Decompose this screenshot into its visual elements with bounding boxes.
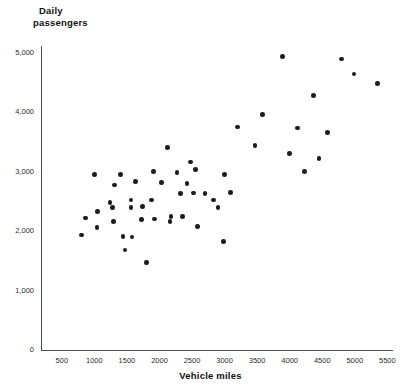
- data-point: [203, 191, 208, 196]
- y-tick-4000: 4,000: [0, 107, 34, 116]
- data-point: [188, 160, 193, 165]
- data-point: [151, 169, 156, 174]
- data-point: [222, 172, 227, 177]
- y-axis-title-line2: passengers: [33, 17, 88, 29]
- data-point: [317, 156, 322, 161]
- y-axis-title-line1: Daily: [33, 5, 88, 17]
- data-point: [95, 225, 100, 230]
- data-point: [123, 248, 128, 253]
- x-tick-4000: 4000: [273, 356, 307, 365]
- data-point: [83, 216, 88, 221]
- data-point: [325, 130, 330, 135]
- data-point: [129, 205, 134, 210]
- data-point: [95, 209, 100, 214]
- data-point: [129, 198, 134, 203]
- data-point: [92, 172, 97, 177]
- data-point: [339, 57, 344, 62]
- data-point: [112, 183, 117, 188]
- x-tick-5500: 5500: [370, 356, 403, 365]
- x-tick-4500: 4500: [305, 356, 339, 365]
- data-point: [111, 219, 116, 224]
- data-point: [302, 169, 307, 174]
- data-point: [159, 180, 164, 185]
- data-point: [140, 204, 145, 209]
- data-point: [139, 217, 144, 222]
- x-tick-1000: 1000: [77, 356, 111, 365]
- data-point: [118, 172, 123, 177]
- y-tick-1000: 1,000: [0, 286, 34, 295]
- data-point: [169, 214, 174, 219]
- data-point: [211, 198, 216, 203]
- data-point: [375, 81, 380, 86]
- data-point: [149, 198, 154, 203]
- data-point: [175, 170, 180, 175]
- data-point: [133, 179, 138, 184]
- data-point: [108, 200, 113, 205]
- y-axis-line: [41, 46, 42, 351]
- data-point: [178, 191, 183, 196]
- data-point: [130, 235, 135, 240]
- data-point: [311, 93, 316, 98]
- y-tick-0: 0: [0, 345, 34, 354]
- data-point: [221, 239, 226, 244]
- x-tick-1500: 1500: [110, 356, 144, 365]
- data-point: [352, 72, 357, 77]
- data-point: [144, 260, 149, 265]
- x-tick-3500: 3500: [240, 356, 274, 365]
- y-tick-2000: 2,000: [0, 226, 34, 235]
- y-tick-5000: 5,000: [0, 48, 34, 57]
- x-tick-2500: 2500: [175, 356, 209, 365]
- x-tick-3000: 3000: [208, 356, 242, 365]
- data-point: [260, 112, 265, 117]
- scatter-plot: Daily passengers 01,0002,0003,0004,0005,…: [0, 0, 403, 386]
- x-tick-2000: 2000: [142, 356, 176, 365]
- x-tick-500: 500: [45, 356, 79, 365]
- x-axis-line: [41, 350, 393, 351]
- data-point: [228, 190, 233, 195]
- data-point: [152, 217, 157, 222]
- x-tick-5000: 5000: [338, 356, 372, 365]
- x-axis-title: Vehicle miles: [0, 370, 403, 381]
- data-point: [195, 224, 200, 229]
- data-point: [168, 219, 173, 224]
- data-point: [193, 167, 198, 172]
- data-point: [79, 233, 84, 238]
- data-point: [165, 145, 170, 150]
- data-point: [295, 126, 300, 131]
- data-point: [287, 151, 292, 156]
- data-point: [185, 181, 190, 186]
- y-tick-3000: 3,000: [0, 167, 34, 176]
- y-axis-title: Daily passengers: [33, 5, 88, 29]
- data-point: [180, 214, 185, 219]
- data-point: [235, 125, 240, 130]
- data-point: [253, 143, 258, 148]
- data-point: [280, 54, 285, 59]
- data-point: [191, 191, 196, 196]
- data-point: [110, 205, 115, 210]
- data-point: [121, 234, 126, 239]
- data-point: [216, 205, 221, 210]
